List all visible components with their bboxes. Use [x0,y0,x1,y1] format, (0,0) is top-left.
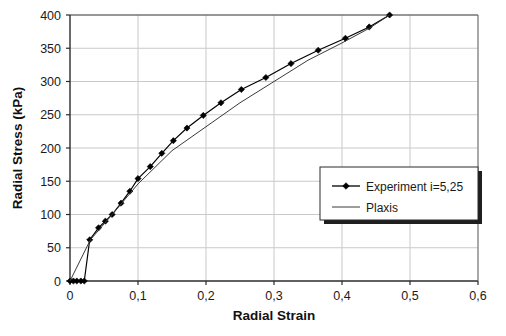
legend-label: Experiment i=5,25 [366,180,463,194]
radial-stress-strain-chart: 050100150200250300350400 00,10,20,30,40,… [0,0,506,336]
chart-canvas: 050100150200250300350400 00,10,20,30,40,… [0,0,506,336]
y-tick-label: 400 [40,9,61,23]
y-tick-label: 100 [40,208,61,222]
x-tick-label: 0,5 [401,289,418,303]
y-tick-label: 250 [40,108,61,122]
x-tick-label: 0,2 [197,289,214,303]
legend-label: Plaxis [366,201,398,215]
x-axis-title: Radial Strain [233,308,316,323]
x-tick-label: 0,6 [469,289,486,303]
y-tick-label: 50 [47,241,61,255]
y-tick-label: 0 [54,275,61,289]
x-tick-label: 0,3 [265,289,282,303]
legend-box [320,167,478,220]
x-tick-label: 0,4 [333,289,350,303]
y-tick-label: 150 [40,175,61,189]
x-tick-label: 0 [67,289,74,303]
chart-legend[interactable]: Experiment i=5,25Plaxis [320,167,482,224]
y-tick-label: 350 [40,42,61,56]
y-axis-title: Radial Stress (kPa) [10,87,25,209]
y-tick-label: 300 [40,75,61,89]
y-tick-label: 200 [40,142,61,156]
x-tick-label: 0,1 [129,289,146,303]
